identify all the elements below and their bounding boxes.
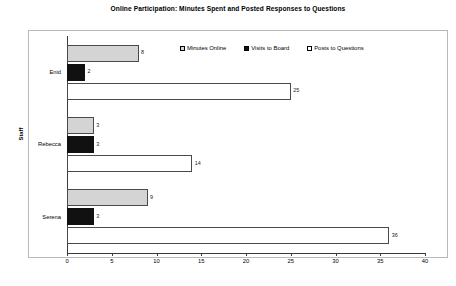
page-title: Online Participation: Minutes Spent and … [0,5,456,12]
x-tick-mark [425,253,426,256]
bar-rebecca-visits-to-board [67,136,94,153]
bar-chart: Online Participation: Minutes Spent and … [0,0,456,286]
x-tick-mark [336,253,337,256]
x-tick-mark [246,253,247,256]
bar-value-label: 36 [392,233,398,238]
bar-rebecca-minutes-online [67,117,94,134]
x-tick-label: 5 [102,258,122,264]
bar-serena-visits-to-board [67,208,94,225]
bar-value-label: 2 [87,69,90,74]
bar-value-label: 3 [96,123,99,128]
x-tick-label: 25 [281,258,301,264]
bar-value-label: 9 [150,195,153,200]
x-tick-label: 30 [326,258,346,264]
x-tick-mark [157,253,158,256]
bar-value-label: 3 [96,142,99,147]
x-tick-label: 0 [57,258,77,264]
bar-enid-visits-to-board [67,64,85,81]
category-label: Serena [1,214,61,220]
bar-value-label: 3 [96,214,99,219]
category-label: Rebecca [1,141,61,147]
x-tick-label: 40 [415,258,435,264]
category-label: Enid [1,69,61,75]
x-tick-label: 10 [147,258,167,264]
x-tick-mark [380,253,381,256]
x-tick-mark [201,253,202,256]
x-tick-mark [112,253,113,256]
bar-enid-minutes-online [67,45,139,62]
bar-serena-minutes-online [67,189,148,206]
bar-enid-posts-to-questions [67,83,291,100]
bar-rebecca-posts-to-questions [67,155,192,172]
plot-area: Enid8225Rebecca3314Serena933605101520253… [67,36,425,253]
bar-value-label: 25 [293,88,299,93]
x-tick-mark [67,253,68,256]
x-tick-label: 15 [191,258,211,264]
bar-value-label: 8 [141,50,144,55]
bar-serena-posts-to-questions [67,227,389,244]
x-tick-label: 35 [370,258,390,264]
bar-value-label: 14 [195,161,201,166]
x-tick-label: 20 [236,258,256,264]
x-tick-mark [291,253,292,256]
